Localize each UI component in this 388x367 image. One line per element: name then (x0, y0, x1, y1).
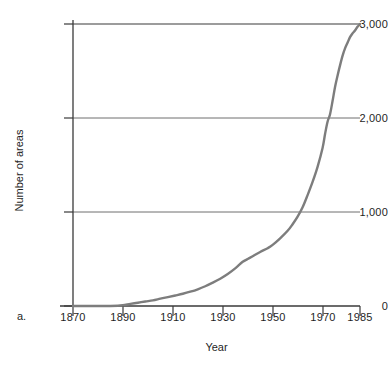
xtick-label-1910: 1910 (160, 311, 185, 323)
gridlines (73, 24, 360, 212)
data-series-line (73, 24, 360, 306)
xtick-label-1930: 1930 (210, 311, 235, 323)
y-tick-marks (64, 24, 73, 306)
ytick-label-3000: 3,000 (326, 19, 388, 30)
xtick-label-1890: 1890 (110, 311, 135, 323)
panel-label: a. (17, 310, 26, 322)
xtick-label-1950: 1950 (260, 311, 285, 323)
ytick-label-1000: 1,000 (326, 207, 388, 218)
xtick-label-1870: 1870 (60, 311, 85, 323)
chart-figure: 3,000 2,000 1,000 0 1870 1890 1910 1930 … (0, 0, 388, 367)
ytick-label-2000: 2,000 (326, 113, 388, 124)
x-axis-title: Year (73, 341, 360, 353)
xtick-label-1985: 1985 (347, 311, 372, 323)
xtick-label-1970: 1970 (310, 311, 335, 323)
y-axis-title: Number of areas (14, 121, 25, 221)
